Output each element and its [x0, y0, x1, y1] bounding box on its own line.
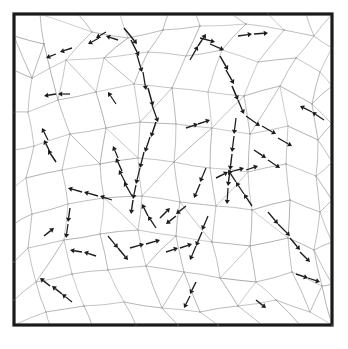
grain-junction-node: [177, 324, 179, 326]
grain-junction-node: [107, 269, 108, 270]
grain-junction-node: [31, 77, 32, 78]
grain-junction-node: [95, 91, 96, 92]
arrow-shaft: [227, 188, 228, 200]
grain-junction-node: [199, 25, 200, 26]
grain-junction-node: [291, 271, 292, 272]
grain-junction-node: [43, 43, 45, 45]
grain-junction-node: [13, 261, 14, 262]
grain-junction-node: [249, 133, 250, 134]
grain-junction-node: [141, 195, 142, 196]
grain-junction-node: [245, 23, 246, 24]
figure-background: [0, 0, 348, 349]
grain-junction-node: [243, 95, 245, 97]
grain-junction-node: [179, 201, 180, 202]
figure-root: [0, 0, 348, 349]
grain-junction-node: [217, 324, 218, 325]
grain-junction-node: [295, 57, 297, 59]
grain-junction-node: [289, 199, 290, 200]
grain-junction-node: [251, 209, 252, 210]
grain-tessellation-figure: [0, 0, 348, 349]
grain-junction-node: [91, 31, 92, 32]
grain-junction-node: [275, 299, 276, 300]
grain-junction-node: [237, 305, 238, 306]
grain-junction-node: [145, 265, 146, 266]
grain-junction-node: [99, 163, 101, 165]
grain-junction-node: [315, 175, 316, 176]
grain-junction-node: [249, 245, 250, 246]
grain-junction-node: [175, 235, 176, 236]
grain-junction-node: [13, 299, 14, 300]
grain-junction-node: [332, 48, 333, 49]
grain-junction-node: [211, 241, 213, 243]
arrow-shaft: [254, 33, 264, 34]
grain-junction-node: [69, 133, 70, 134]
grain-junction-node: [173, 161, 174, 162]
grain-junction-node: [332, 162, 333, 163]
grain-junction-node: [100, 234, 101, 235]
grain-junction-node: [83, 305, 84, 306]
grain-junction-node: [71, 273, 72, 274]
grain-junction-node: [331, 324, 332, 325]
grain-junction-node: [283, 29, 285, 31]
grain-junction-node: [162, 29, 164, 31]
grain-junction-node: [267, 13, 268, 14]
grain-junction-node: [171, 87, 172, 88]
grain-junction-node: [13, 111, 14, 112]
grain-junction-node: [135, 324, 136, 325]
grain-junction-node: [199, 311, 200, 312]
grain-junction-node: [147, 51, 148, 52]
grain-junction-node: [57, 99, 58, 100]
grain-junction-node: [285, 163, 286, 164]
